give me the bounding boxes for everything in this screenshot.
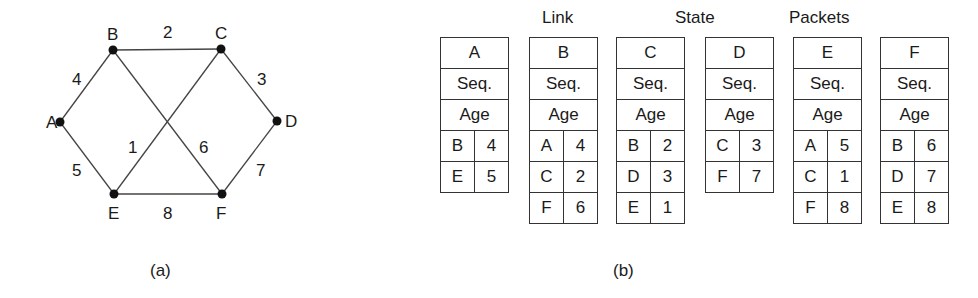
edge-weight-label: 3 <box>257 70 266 89</box>
edge-b-c <box>113 49 221 50</box>
router-node-d <box>273 117 282 126</box>
neighbor-row: B4 <box>441 131 509 162</box>
edge-a-b <box>60 50 113 122</box>
edge-c-d <box>221 49 277 121</box>
router-node-f <box>218 190 227 199</box>
packet-age-field: Age <box>617 100 685 131</box>
neighbor-name: C <box>794 162 828 193</box>
neighbor-name: B <box>617 131 651 162</box>
packet-source-router: D <box>706 38 774 69</box>
packet-age-field: Age <box>706 100 774 131</box>
edge-weight-label: 1 <box>128 138 137 157</box>
packet-table-c: CSeq.AgeB2D3E1 <box>616 37 685 224</box>
packet-table-a: ASeq.AgeB4E5 <box>440 37 509 193</box>
edge-weight-label: 7 <box>256 161 265 180</box>
link-cost: 7 <box>740 162 774 193</box>
heading-word-state: State <box>675 8 715 28</box>
packet-seq-field: Seq. <box>617 69 685 100</box>
neighbor-name: F <box>706 162 740 193</box>
packet-age-field: Age <box>794 100 862 131</box>
packet-source-router: E <box>794 38 862 69</box>
router-node-e <box>110 190 119 199</box>
neighbor-name: E <box>441 162 475 193</box>
graph-edges: 42351678 <box>60 23 277 223</box>
router-node-b <box>109 46 118 55</box>
neighbor-row: F8 <box>794 193 862 224</box>
neighbor-row: B6 <box>881 131 949 162</box>
graph-nodes: ABCDEF <box>46 24 297 223</box>
neighbor-row: E5 <box>441 162 509 193</box>
heading-word-packets: Packets <box>789 8 849 28</box>
packet-source-router: C <box>617 38 685 69</box>
edge-weight-label: 2 <box>163 23 172 42</box>
link-cost: 3 <box>740 131 774 162</box>
router-label: E <box>108 204 119 223</box>
neighbor-row: E1 <box>617 193 685 224</box>
link-cost: 4 <box>564 131 598 162</box>
link-cost: 8 <box>828 193 862 224</box>
neighbor-row: A4 <box>530 131 598 162</box>
router-label: C <box>215 24 227 43</box>
link-cost: 2 <box>564 162 598 193</box>
caption-a: (a) <box>150 261 171 281</box>
link-cost: 2 <box>651 131 685 162</box>
router-node-c <box>217 45 226 54</box>
neighbor-row: D7 <box>881 162 949 193</box>
neighbor-name: B <box>881 131 915 162</box>
neighbor-name: C <box>706 131 740 162</box>
heading-word-link: Link <box>542 8 573 28</box>
neighbor-row: B2 <box>617 131 685 162</box>
neighbor-row: C3 <box>706 131 774 162</box>
network-graph: 42351678 ABCDEF <box>0 0 330 250</box>
packet-table-e: ESeq.AgeA5C1F8 <box>793 37 862 224</box>
packet-seq-field: Seq. <box>530 69 598 100</box>
neighbor-name: E <box>881 193 915 224</box>
neighbor-name: C <box>530 162 564 193</box>
caption-b: (b) <box>613 261 634 281</box>
packet-source-router: B <box>530 38 598 69</box>
packet-seq-field: Seq. <box>881 69 949 100</box>
link-cost: 5 <box>475 162 509 193</box>
packet-seq-field: Seq. <box>794 69 862 100</box>
link-cost: 5 <box>828 131 862 162</box>
edge-weight-label: 8 <box>163 204 172 223</box>
packet-age-field: Age <box>441 100 509 131</box>
edge-weight-label: 6 <box>199 138 208 157</box>
neighbor-name: F <box>530 193 564 224</box>
neighbor-row: C1 <box>794 162 862 193</box>
neighbor-row: F7 <box>706 162 774 193</box>
packet-age-field: Age <box>530 100 598 131</box>
edge-weight-label: 5 <box>72 161 81 180</box>
router-label: F <box>216 204 226 223</box>
neighbor-name: D <box>617 162 651 193</box>
router-label: B <box>107 25 118 44</box>
packet-table-b: BSeq.AgeA4C2F6 <box>529 37 598 224</box>
edge-d-f <box>222 121 277 194</box>
packet-source-router: A <box>441 38 509 69</box>
neighbor-name: E <box>617 193 651 224</box>
packet-seq-field: Seq. <box>441 69 509 100</box>
packet-table-f: FSeq.AgeB6D7E8 <box>880 37 949 224</box>
link-cost: 6 <box>915 131 949 162</box>
neighbor-row: C2 <box>530 162 598 193</box>
packet-age-field: Age <box>881 100 949 131</box>
router-label: D <box>285 112 297 131</box>
neighbor-name: D <box>881 162 915 193</box>
neighbor-name: B <box>441 131 475 162</box>
neighbor-name: F <box>794 193 828 224</box>
neighbor-row: E8 <box>881 193 949 224</box>
packet-seq-field: Seq. <box>706 69 774 100</box>
link-cost: 8 <box>915 193 949 224</box>
edge-a-e <box>60 122 114 194</box>
link-cost: 7 <box>915 162 949 193</box>
neighbor-name: A <box>794 131 828 162</box>
neighbor-row: D3 <box>617 162 685 193</box>
packet-source-router: F <box>881 38 949 69</box>
neighbor-row: A5 <box>794 131 862 162</box>
neighbor-name: A <box>530 131 564 162</box>
link-cost: 4 <box>475 131 509 162</box>
edge-weight-label: 4 <box>72 70 81 89</box>
packet-table-d: DSeq.AgeC3F7 <box>705 37 774 193</box>
link-cost: 1 <box>828 162 862 193</box>
link-cost: 1 <box>651 193 685 224</box>
